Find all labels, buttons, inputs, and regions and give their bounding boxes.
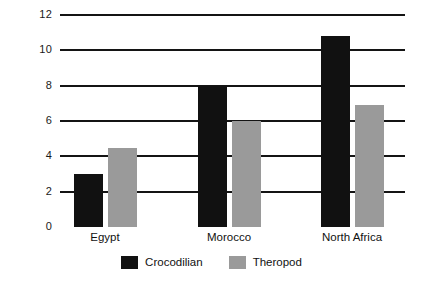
legend-label-crocodilian: Crocodilian: [145, 257, 203, 269]
x-tick-label-north-africa: North Africa: [292, 231, 412, 245]
chart-legend: CrocodilianTheropod: [0, 256, 423, 269]
legend-entry-crocodilian: Crocodilian: [121, 256, 203, 269]
gridline-12: [60, 14, 405, 16]
gridline-10: [60, 49, 405, 51]
bar-chart: 024681012 EgyptMoroccoNorth Africa Croco…: [0, 0, 423, 285]
bar-north-africa-theropod: [355, 105, 384, 227]
x-tick-label-egypt: Egypt: [45, 231, 165, 245]
bar-morocco-crocodilian: [198, 86, 227, 227]
bar-north-africa-crocodilian: [321, 36, 350, 227]
bar-morocco-theropod: [232, 121, 261, 227]
legend-label-theropod: Theropod: [253, 257, 302, 269]
legend-swatch-theropod: [229, 256, 246, 269]
y-tick-label-4: 4: [8, 150, 52, 161]
legend-swatch-crocodilian: [121, 256, 138, 269]
y-tick-label-8: 8: [8, 80, 52, 91]
gridline-8: [60, 85, 405, 87]
plot-area: [60, 15, 405, 227]
bar-egypt-theropod: [108, 148, 137, 228]
y-axis: 024681012: [0, 15, 52, 227]
bar-egypt-crocodilian: [74, 174, 103, 227]
x-axis-category-labels: EgyptMoroccoNorth Africa: [60, 231, 405, 249]
y-tick-label-12: 12: [8, 9, 52, 20]
y-tick-label-10: 10: [8, 44, 52, 55]
x-tick-label-morocco: Morocco: [169, 231, 289, 245]
y-tick-label-6: 6: [8, 115, 52, 126]
legend-entry-theropod: Theropod: [229, 256, 302, 269]
y-tick-label-2: 2: [8, 186, 52, 197]
